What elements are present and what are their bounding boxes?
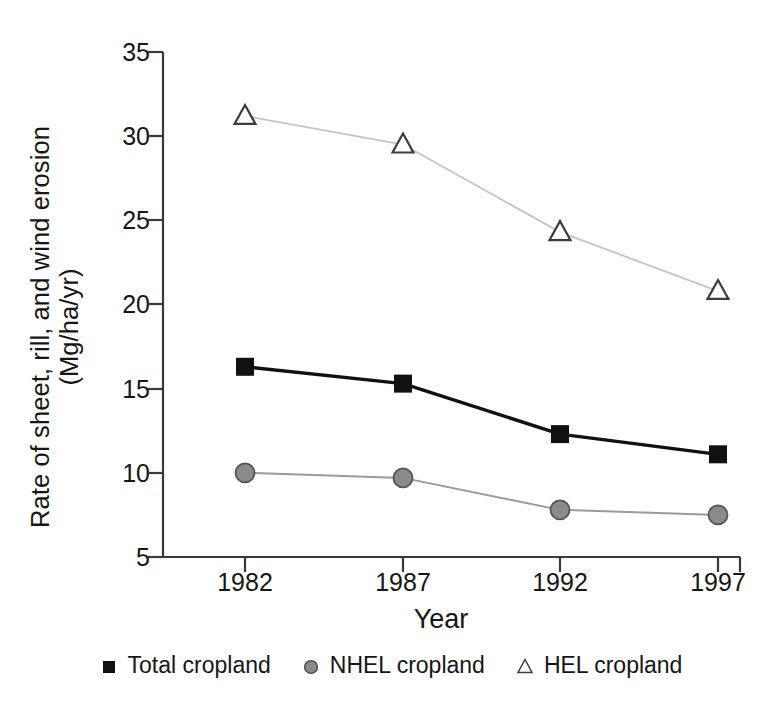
erosion-line-chart: Rate of sheet, rill, and wind erosion (M… (0, 0, 781, 716)
series-line (245, 367, 718, 455)
data-point (394, 468, 413, 487)
legend-item-nhel-cropland[interactable]: NHEL cropland (301, 652, 485, 679)
legend-label-total-cropland: Total cropland (128, 652, 271, 679)
data-point (551, 500, 570, 519)
data-point (394, 375, 412, 393)
data-point (236, 463, 255, 482)
series-nhel-cropland (236, 463, 728, 524)
data-point (236, 358, 254, 376)
legend-label-nhel-cropland: NHEL cropland (330, 652, 485, 679)
data-point (709, 505, 728, 524)
triangle-marker-icon (515, 656, 535, 676)
series-hel-cropland (235, 105, 729, 299)
series-line (245, 116, 718, 291)
series-line (245, 473, 718, 515)
circle-marker-icon (301, 656, 321, 676)
data-series-layer (235, 105, 729, 524)
data-point (708, 280, 729, 299)
data-point (550, 221, 571, 240)
data-point (709, 445, 727, 463)
legend-item-hel-cropland[interactable]: HEL cropland (515, 652, 683, 679)
series-total-cropland (236, 358, 727, 464)
chart-legend: Total cropland NHEL cropland HEL croplan… (0, 652, 781, 679)
legend-item-total-cropland[interactable]: Total cropland (99, 652, 271, 679)
square-marker-icon (99, 656, 119, 676)
plot-area (0, 0, 781, 716)
data-point (551, 425, 569, 443)
data-point (235, 105, 256, 124)
x-axis-ticks (245, 557, 740, 572)
legend-label-hel-cropland: HEL cropland (544, 652, 683, 679)
y-axis-ticks (148, 52, 163, 557)
